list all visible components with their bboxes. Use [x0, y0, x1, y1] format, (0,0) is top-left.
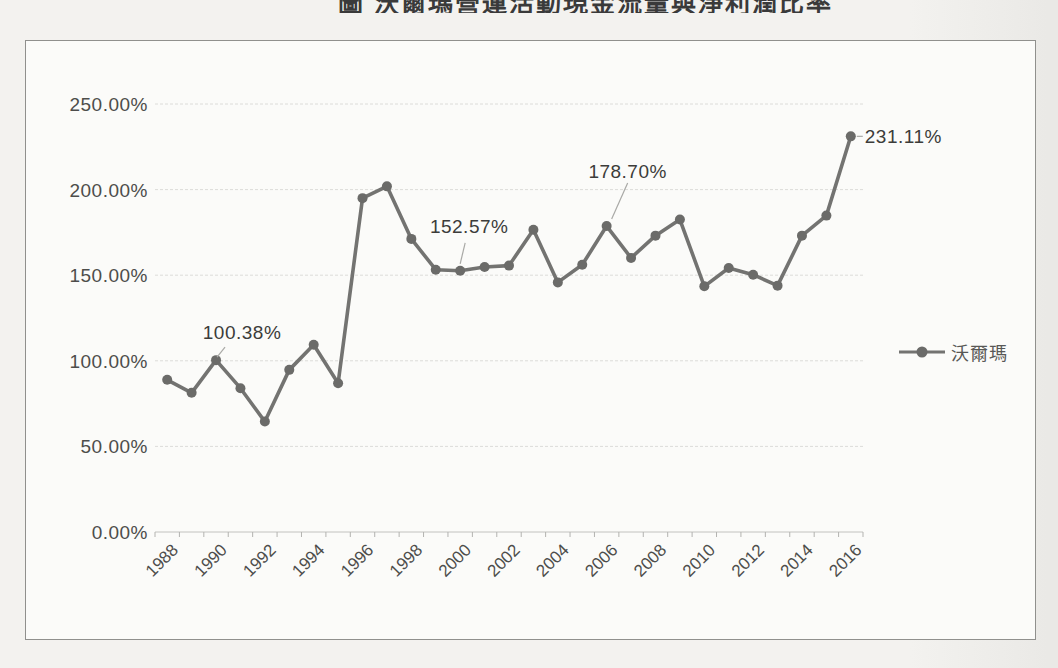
data-point-1997	[382, 181, 392, 191]
data-label-2016: 231.11%	[865, 126, 942, 147]
data-point-1998	[406, 234, 416, 244]
data-point-1989	[187, 388, 197, 398]
data-point-1988	[162, 375, 172, 385]
data-point-2010	[699, 281, 709, 291]
data-label-2000: 152.57%	[430, 216, 509, 237]
data-point-2001	[480, 262, 490, 272]
data-point-2012	[748, 270, 758, 280]
data-point-2004	[553, 277, 563, 287]
legend: 沃爾瑪	[898, 339, 1008, 365]
x-axis-label-2014: 2014	[777, 540, 817, 580]
data-point-2007	[626, 253, 636, 263]
y-axis-label-0: 0.00%	[92, 522, 148, 543]
y-axis-label-250: 250.00%	[69, 94, 148, 115]
x-axis-label-2016: 2016	[825, 540, 865, 580]
data-label-leader-2000	[460, 243, 465, 264]
data-point-2003	[528, 225, 538, 235]
y-axis-label-200: 200.00%	[69, 180, 148, 201]
legend-marker-icon	[898, 345, 946, 359]
x-axis-label-1990: 1990	[191, 540, 231, 580]
data-point-2009	[675, 215, 685, 225]
data-point-1993	[284, 365, 294, 375]
y-axis-label-50: 50.00%	[81, 436, 148, 457]
data-point-1991	[235, 383, 245, 393]
data-label-leader-2006	[612, 183, 628, 219]
data-point-1995	[333, 378, 343, 388]
data-point-1994	[309, 340, 319, 350]
x-axis-label-2002: 2002	[484, 540, 524, 580]
x-axis-label-1992: 1992	[240, 540, 280, 580]
data-point-2008	[650, 231, 660, 241]
data-point-2015	[821, 211, 831, 221]
data-point-1996	[358, 193, 368, 203]
data-point-2016	[846, 131, 856, 141]
y-axis-label-100: 100.00%	[69, 351, 148, 372]
data-point-2005	[577, 260, 587, 270]
x-axis-label-2010: 2010	[679, 540, 719, 580]
chart-canvas: 0.00%50.00%100.00%150.00%200.00%250.00%1…	[0, 0, 1058, 668]
y-axis-label-150: 150.00%	[69, 265, 148, 286]
x-axis-label-2000: 2000	[435, 540, 475, 580]
data-point-2002	[504, 261, 514, 271]
data-point-2000	[455, 266, 465, 276]
data-label-2006: 178.70%	[588, 161, 667, 182]
data-point-1999	[431, 265, 441, 275]
data-label-1990: 100.38%	[203, 322, 282, 343]
series-line-沃爾瑪	[167, 136, 851, 421]
x-axis-label-1998: 1998	[386, 540, 426, 580]
x-axis-label-1988: 1988	[142, 540, 182, 580]
scanned-figure-page: 圖 沃爾瑪營運活動現金流量與淨利潤比率 0.00%50.00%100.00%15…	[0, 0, 1058, 668]
x-axis-label-1996: 1996	[337, 540, 377, 580]
data-point-2014	[797, 231, 807, 241]
data-point-1990	[211, 355, 221, 365]
data-point-2011	[724, 263, 734, 273]
data-point-2006	[602, 221, 612, 231]
x-axis-label-2008: 2008	[630, 540, 670, 580]
data-label-leader-1990	[217, 347, 225, 357]
x-axis-label-2004: 2004	[532, 540, 572, 580]
legend-series-label: 沃爾瑪	[951, 339, 1008, 365]
data-point-2013	[773, 281, 783, 291]
x-axis-label-1994: 1994	[288, 540, 328, 580]
x-axis-label-2012: 2012	[728, 540, 768, 580]
data-point-1992	[260, 417, 270, 427]
x-axis-label-2006: 2006	[581, 540, 621, 580]
